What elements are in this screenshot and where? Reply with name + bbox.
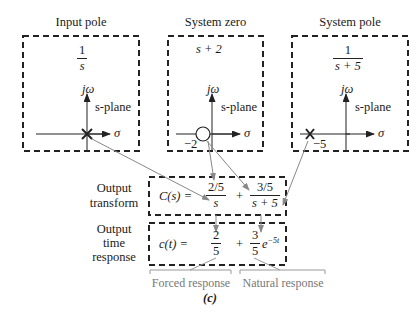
transform-plus: + — [236, 189, 243, 204]
transform-term2: 3/5s + 5 — [250, 181, 280, 210]
time-term1: 25 — [211, 229, 221, 258]
figure-caption: (c) — [200, 291, 220, 306]
s-plane-label: s-plane — [355, 100, 391, 115]
transform-term1: 2/5s — [206, 181, 226, 210]
input-pole-title: Input pole — [23, 15, 139, 30]
jw-axis-label: jω — [341, 82, 353, 97]
natural-response-label: Natural response — [240, 276, 326, 291]
zero-location-label: −2 — [184, 137, 197, 152]
pole-location-label: −5 — [313, 137, 326, 152]
system-pole-title: System pole — [292, 15, 408, 30]
s-plane-label: s-plane — [95, 100, 131, 115]
forced-response-label: Forced response — [150, 276, 232, 291]
s-plane-label: s-plane — [221, 100, 257, 115]
system-zero-title: System zero — [168, 15, 263, 30]
output-transform-label: Outputtransform — [84, 181, 144, 211]
system-zero-expression: s + 2 — [196, 42, 222, 57]
time-exponential: e−5t — [262, 236, 279, 252]
output-time-response-label: Outputtimeresponse — [84, 222, 144, 264]
jw-axis-label: jω — [82, 82, 94, 97]
jw-axis-label: jω — [207, 82, 219, 97]
sigma-axis-label: σ — [244, 126, 250, 141]
sigma-axis-label: σ — [378, 126, 384, 141]
system-pole-expression: 1s + 5 — [333, 44, 363, 73]
time-lhs: c(t) = — [159, 237, 188, 252]
time-plus: + — [236, 237, 243, 252]
input-pole-expression: 1s — [77, 44, 87, 73]
time-term2: 35 — [250, 229, 260, 258]
sigma-axis-label: σ — [114, 126, 120, 141]
transform-lhs: C(s) = — [159, 189, 192, 204]
